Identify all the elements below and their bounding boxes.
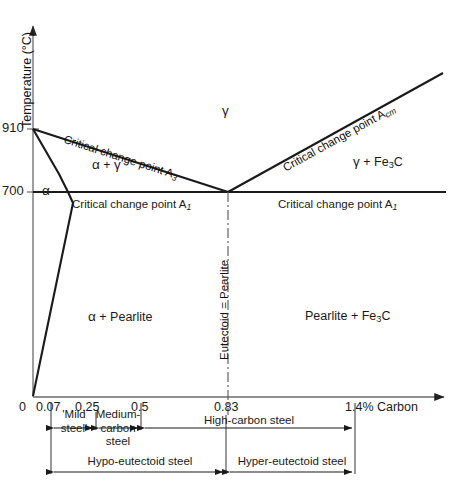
region-label-alpha-pearlite: α + Pearlite <box>88 310 152 324</box>
alpha-pearlite-alpha: α <box>88 309 96 324</box>
y-tick-label-910: 910 <box>2 121 24 134</box>
alpha-gamma-alpha: α <box>92 157 100 172</box>
medium-carbon-line3: steel <box>92 436 144 448</box>
x-tick-label-14: 1.4% Carbon <box>345 401 418 414</box>
a1-left-text: Critical change point A <box>72 198 186 210</box>
x-tick-label-0: 0 <box>19 401 26 414</box>
y-tick-label-700: 700 <box>2 184 24 197</box>
y-axis-title: Temperature (°C) <box>20 32 34 128</box>
mild-steel-line2: steel' <box>50 423 98 435</box>
a1-curve-label-left: Critical change point A1 <box>72 199 191 212</box>
bracket-label-medium-carbon: Medium- carbon steel <box>92 409 144 448</box>
pearlite-fe3c-pearlite: Pearlite <box>305 309 347 323</box>
bracket-label-hypo-eutectoid: Hypo-eutectoid steel <box>65 456 215 468</box>
a1-right-text: Critical change point A <box>278 198 392 210</box>
pearlite-fe3c-fe: Fe <box>362 309 377 323</box>
gamma-fe3c-plus: + <box>363 155 370 169</box>
x-tick-label-083: 0.83 <box>214 401 238 414</box>
a1-right-sub: 1 <box>392 202 397 212</box>
gamma-fe3c-fe: Fe <box>374 155 389 169</box>
bracket-label-mild-steel: 'Mild steel' <box>50 409 98 434</box>
pearlite-fe3c-plus: + <box>351 309 358 323</box>
region-label-gamma: γ <box>222 104 229 118</box>
pearlite-fe3c-c: C <box>381 309 390 323</box>
mild-steel-line1: 'Mild <box>50 409 98 421</box>
region-label-gamma-fe3c: γ + Fe3C <box>353 155 403 171</box>
region-label-pearlite-fe3c: Pearlite + Fe3C <box>305 310 390 325</box>
bracket-label-hyper-eutectoid: Hyper-eutectoid steel <box>228 456 356 468</box>
alpha-solvus-boundary <box>33 129 73 396</box>
gamma-fe3c-c: C <box>394 155 403 169</box>
eutectoid-pearlite-label: Eutectoid = Pearlite <box>218 260 230 360</box>
a1-left-sub: 1 <box>186 202 191 212</box>
alpha-pearlite-plus: + <box>99 310 106 324</box>
region-label-alpha: α <box>42 184 50 198</box>
medium-carbon-line1: Medium- <box>92 409 144 421</box>
medium-carbon-line2: carbon <box>92 423 144 435</box>
gamma-fe3c-gamma: γ <box>353 154 360 169</box>
a1-curve-label-right: Critical change point A1 <box>278 199 397 212</box>
alpha-pearlite-label: Pearlite <box>110 310 152 324</box>
bracket-label-high-carbon: High-carbon steel <box>174 415 324 427</box>
